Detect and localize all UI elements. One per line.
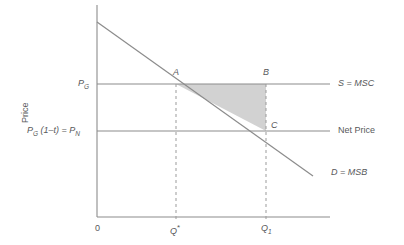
- diagram-canvas: [0, 0, 404, 245]
- q1-base: Q: [261, 223, 268, 233]
- supply-demand-diagram: Price PG PG (1–t) = PN 0 Q* Q1 A B C S =…: [0, 0, 404, 245]
- y-tick-label-gross-price: PG: [78, 79, 89, 90]
- net-price-expression-middle: (1–t) = P: [38, 125, 75, 135]
- x-tick-label-q-star: Q*: [170, 224, 180, 236]
- demand-msb-line: [97, 22, 313, 176]
- point-label-a: A: [173, 68, 179, 77]
- net-price-subscript: N: [75, 130, 80, 137]
- point-label-c: C: [271, 121, 278, 130]
- q-star-base: Q: [170, 226, 177, 236]
- point-label-b: B: [263, 68, 269, 77]
- curve-label-supply: S = MSC: [338, 79, 374, 88]
- curve-label-net-price: Net Price: [338, 126, 375, 135]
- deadweight-loss-shaded-region: [176, 84, 266, 131]
- q1-subscript: 1: [268, 228, 272, 235]
- q-star-asterisk: *: [177, 223, 180, 232]
- x-tick-label-q1: Q1: [261, 224, 272, 235]
- origin-label: 0: [95, 224, 100, 233]
- curve-label-demand: D = MSB: [331, 168, 367, 177]
- gross-price-subscript: G: [84, 83, 89, 90]
- y-tick-label-net-price: PG (1–t) = PN: [27, 126, 80, 137]
- y-axis-title: Price: [21, 102, 30, 123]
